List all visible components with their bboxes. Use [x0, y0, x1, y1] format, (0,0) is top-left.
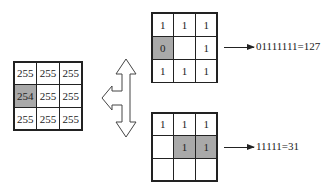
grid-cell: 1 — [173, 113, 196, 137]
grid-cell — [173, 36, 196, 60]
grid-cell: 255 — [36, 84, 60, 108]
grid-cell: 1 — [195, 59, 218, 83]
grid-cell: 255 — [59, 62, 83, 86]
grid-cell — [152, 135, 175, 159]
grid-cell: 255 — [14, 62, 38, 86]
grid-cell: 255 — [36, 62, 60, 86]
right-arrow-icon — [224, 147, 254, 148]
grid-cell: 1 — [152, 59, 175, 83]
grid-cell: 1 — [152, 113, 175, 137]
grid-cell: 255 — [36, 107, 60, 131]
grid-cell: 255 — [59, 84, 83, 108]
grid-cell: 1 — [195, 13, 218, 37]
grid-cell: 1 — [195, 113, 218, 137]
grid-cell-highlighted: 1 — [195, 135, 218, 159]
grid-cell-highlighted: 254 — [14, 84, 38, 108]
grid-cell — [152, 158, 175, 182]
pixel-value-grid: 255 255 255 254 255 255 255 255 255 — [13, 61, 83, 131]
grid-cell — [195, 158, 218, 182]
grid-cell: 1 — [195, 36, 218, 60]
grid-cell-highlighted: 0 — [152, 36, 175, 60]
top-result-label: 01111111=127 — [256, 40, 320, 52]
bottom-result-label: 11111=31 — [256, 140, 299, 152]
grid-cell: 255 — [59, 107, 83, 131]
grid-cell: 1 — [152, 13, 175, 37]
grid-cell — [173, 158, 196, 182]
split-arrow-icon — [100, 58, 140, 138]
grid-cell-highlighted: 1 — [173, 135, 196, 159]
binary-grid-bottom: 1 1 1 1 1 — [151, 112, 218, 182]
grid-cell: 255 — [14, 107, 38, 131]
grid-cell: 1 — [173, 13, 196, 37]
grid-cell: 1 — [173, 59, 196, 83]
binary-grid-top: 1 1 1 0 1 1 1 1 — [151, 12, 218, 83]
right-arrow-icon — [224, 47, 254, 48]
